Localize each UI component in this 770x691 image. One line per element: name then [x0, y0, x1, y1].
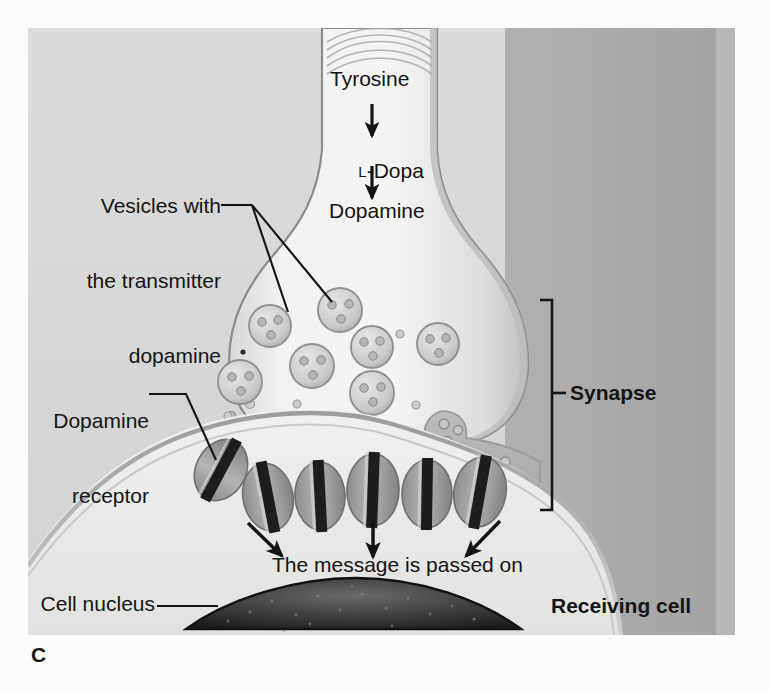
- vesicle: [249, 305, 291, 347]
- frame-right-edge-highlight: [716, 28, 735, 635]
- label-dopamine-receptor: Dopamine receptor: [0, 358, 149, 558]
- vesicle: [218, 360, 262, 404]
- label-dopamine-receptor-line2: receptor: [0, 483, 149, 508]
- label-message-passed-on: The message is passed on: [272, 552, 523, 577]
- vesicle: [351, 326, 393, 368]
- label-l-dopa-rest: -Dopa: [367, 159, 424, 182]
- label-synapse: Synapse: [570, 380, 656, 405]
- label-cell-nucleus: Cell nucleus: [0, 591, 155, 616]
- vesicle: [350, 371, 394, 415]
- panel-letter-c: C: [31, 643, 47, 667]
- label-l-dopa-prefix: L: [358, 163, 366, 180]
- label-dopamine: Dopamine: [329, 198, 425, 223]
- label-vesicles-line1: Vesicles with: [21, 193, 221, 218]
- vesicle: [417, 323, 459, 365]
- vesicle: [290, 344, 334, 388]
- terminal-speck: [240, 349, 245, 354]
- label-dopamine-receptor-line1: Dopamine: [0, 408, 149, 433]
- label-vesicles-line2: the transmitter: [21, 268, 221, 293]
- label-tyrosine: Tyrosine: [330, 66, 409, 91]
- label-receiving-cell: Receiving cell: [551, 593, 691, 618]
